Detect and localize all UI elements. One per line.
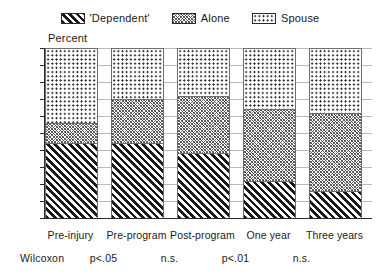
y-tick-mark xyxy=(40,218,45,219)
x-axis-label-2: Post-program xyxy=(165,230,241,241)
legend-label-alone: Alone xyxy=(201,13,230,24)
legend-item-spouse: Spouse xyxy=(252,13,320,24)
legend-label-dependent: 'Dependent' xyxy=(90,13,150,24)
wilcoxon-value-0: p<.05 xyxy=(74,253,134,264)
bar-segment-alone xyxy=(309,113,362,191)
legend-label-spouse: Spouse xyxy=(281,13,320,24)
bar-segment-dependent xyxy=(45,143,98,218)
wilcoxon-stats-row: Wilcoxon p<.05 n.s. p<.01 n.s. xyxy=(0,253,380,269)
bar-pre-program xyxy=(111,48,164,218)
legend-swatch-dependent-icon xyxy=(61,13,85,24)
bar-post-program xyxy=(177,48,230,218)
bar-segment-dependent xyxy=(111,143,164,218)
x-axis-label-0: Pre-injury xyxy=(33,230,109,241)
bar-segment-dependent xyxy=(177,153,230,218)
bar-segment-spouse xyxy=(309,48,362,113)
wilcoxon-value-1: n.s. xyxy=(140,253,200,264)
bar-segment-alone xyxy=(243,109,296,180)
x-axis-label-3: One year xyxy=(231,230,307,241)
bar-segment-alone xyxy=(111,99,164,143)
wilcoxon-value-3: n.s. xyxy=(272,253,332,264)
bar-segment-alone xyxy=(45,123,98,143)
x-axis-label-4: Three years xyxy=(297,230,373,241)
bar-one-year xyxy=(243,48,296,218)
bar-segment-dependent xyxy=(309,191,362,218)
bar-pre-injury xyxy=(45,48,98,218)
legend-item-dependent: 'Dependent' xyxy=(61,13,150,24)
bar-segment-alone xyxy=(177,96,230,154)
chart-legend: 'Dependent' Alone Spouse xyxy=(0,8,380,28)
legend-swatch-alone-icon xyxy=(172,13,196,24)
bar-segment-spouse xyxy=(177,48,230,96)
stacked-bar-chart-figure: 'Dependent' Alone Spouse Percent 1009080… xyxy=(0,0,380,277)
bar-segment-spouse xyxy=(111,48,164,99)
plot-area: 1009080706050403020100 xyxy=(44,48,372,219)
legend-swatch-spouse-icon xyxy=(252,13,276,24)
y-axis-title: Percent xyxy=(48,33,87,44)
wilcoxon-value-2: p<.01 xyxy=(206,253,266,264)
bar-segment-spouse xyxy=(45,48,98,123)
bar-segment-spouse xyxy=(243,48,296,109)
legend-item-alone: Alone xyxy=(172,13,230,24)
wilcoxon-label: Wilcoxon xyxy=(20,253,64,264)
bar-three-years xyxy=(309,48,362,218)
x-axis-label-1: Pre-program xyxy=(99,230,175,241)
bar-segment-dependent xyxy=(243,181,296,218)
